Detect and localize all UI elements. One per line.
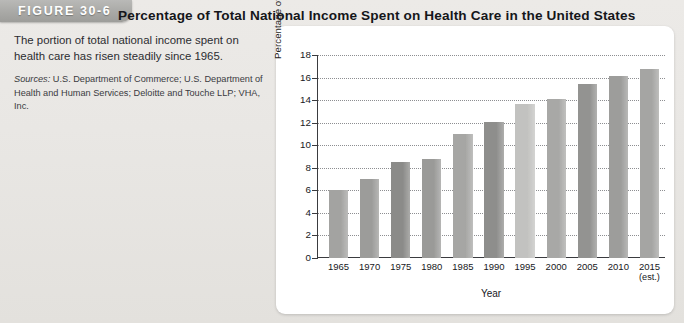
- y-axis-line: [317, 55, 318, 258]
- plot-area: 024681012141618 196519701975198019851990…: [317, 55, 665, 258]
- y-tick-14: [312, 100, 318, 101]
- y-tick-0: [312, 258, 318, 259]
- caption-sources: Sources: U.S. Department of Commerce; U.…: [14, 73, 270, 114]
- y-tick-18: [312, 55, 318, 56]
- y-tick-10: [312, 145, 318, 146]
- y-tick-label-12: 12: [271, 117, 311, 128]
- gridline-18: [317, 55, 665, 56]
- x-label-sub-2015: (est.): [631, 272, 668, 282]
- bar-1965: [329, 190, 348, 258]
- bar-1980: [422, 159, 441, 258]
- y-tick-12: [312, 123, 318, 124]
- y-tick-label-14: 14: [271, 94, 311, 105]
- y-tick-label-10: 10: [271, 139, 311, 150]
- y-tick-2: [312, 235, 318, 236]
- x-axis-title: Year: [317, 288, 665, 299]
- bar-1975: [391, 162, 410, 258]
- chart-panel: Percentage of Total National Income 0246…: [276, 26, 674, 314]
- y-tick-label-8: 8: [271, 162, 311, 173]
- bar-1995: [515, 104, 534, 259]
- y-tick-8: [312, 168, 318, 169]
- page-title: Percentage of Total National Income Spen…: [118, 8, 678, 23]
- bar-1990: [484, 122, 503, 258]
- sources-text: U.S. Department of Commerce; U.S. Depart…: [14, 74, 263, 111]
- bar-1985: [453, 134, 472, 258]
- bar-2005: [578, 84, 597, 258]
- y-tick-6: [312, 190, 318, 191]
- caption-description: The portion of total national income spe…: [14, 33, 270, 64]
- y-tick-4: [312, 213, 318, 214]
- bar-2000: [547, 99, 566, 258]
- bar-2010: [609, 76, 628, 258]
- x-label-2015: 2015(est.): [631, 261, 668, 282]
- bar-2015: [640, 69, 659, 258]
- y-tick-label-0: 0: [271, 252, 311, 263]
- y-tick-label-6: 6: [271, 184, 311, 195]
- caption-block: The portion of total national income spe…: [14, 33, 270, 114]
- y-tick-label-18: 18: [271, 49, 311, 60]
- figure-page: FIGURE 30-6 Percentage of Total National…: [0, 0, 684, 323]
- y-tick-label-4: 4: [271, 207, 311, 218]
- y-tick-16: [312, 78, 318, 79]
- sources-label: Sources:: [14, 74, 50, 84]
- y-tick-label-16: 16: [271, 72, 311, 83]
- figure-number-label: FIGURE 30-6: [18, 4, 111, 18]
- bar-1970: [360, 179, 379, 258]
- figure-number-tab: FIGURE 30-6: [0, 0, 132, 22]
- y-tick-label-2: 2: [271, 229, 311, 240]
